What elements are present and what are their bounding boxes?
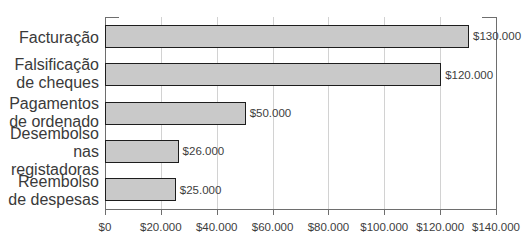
x-tick-0	[105, 210, 106, 215]
category-label-1-line-1: de cheques	[16, 74, 99, 92]
x-tick-2	[217, 210, 218, 215]
bar-value-label-4: $25.000	[180, 184, 222, 196]
plot-area	[105, 17, 497, 209]
bar-1	[105, 63, 441, 86]
bar-0	[105, 25, 469, 48]
x-tick-label-0: $0	[99, 221, 112, 233]
category-label-4-line-0: Reembolso	[18, 173, 99, 191]
bar-4	[105, 178, 176, 201]
axis-line-bottom	[105, 209, 497, 210]
bar-value-label-3: $26.000	[183, 145, 225, 157]
x-tick-6	[440, 210, 441, 215]
bar-value-label-1: $120.000	[445, 69, 493, 81]
x-tick-label-4: $80.000	[308, 221, 350, 233]
category-axis-labels: Facturação Falsificação de cheques Pagam…	[0, 0, 99, 247]
category-label-2-line-0: Pagamentos	[9, 95, 99, 113]
x-tick-label-1: $20.000	[140, 221, 182, 233]
x-tick-label-6: $120.000	[416, 221, 464, 233]
bar-value-label-0: $130.000	[473, 30, 521, 42]
category-label-1: Falsificação de cheques	[0, 55, 99, 93]
x-tick-label-3: $60.000	[252, 221, 294, 233]
frame-corner-topright	[482, 17, 496, 18]
frame-corner-topleft	[105, 17, 119, 18]
x-tick-label-7: $140.000	[472, 221, 520, 233]
category-label-4: Reembolso de despesas	[0, 172, 99, 210]
axis-line-right	[496, 17, 497, 209]
bar-3	[105, 140, 179, 163]
category-label-1-line-0: Falsificação	[15, 56, 99, 74]
x-tick-1	[161, 210, 162, 215]
category-label-3: Desembolso nas registadoras	[0, 133, 99, 171]
x-tick-4	[328, 210, 329, 215]
category-label-0: Facturação	[0, 22, 99, 54]
x-tick-7	[496, 210, 497, 215]
category-label-4-line-1: de despesas	[8, 191, 99, 209]
x-tick-label-5: $100.000	[360, 221, 408, 233]
x-tick-label-2: $40.000	[196, 221, 238, 233]
x-tick-3	[273, 210, 274, 215]
horizontal-bar-chart: Facturação Falsificação de cheques Pagam…	[0, 0, 532, 247]
category-label-0-line-0: Facturação	[19, 29, 99, 47]
bar-2	[105, 102, 246, 125]
x-tick-5	[384, 210, 385, 215]
bar-value-label-2: $50.000	[250, 107, 292, 119]
category-label-3-line-0: Desembolso	[10, 125, 99, 143]
